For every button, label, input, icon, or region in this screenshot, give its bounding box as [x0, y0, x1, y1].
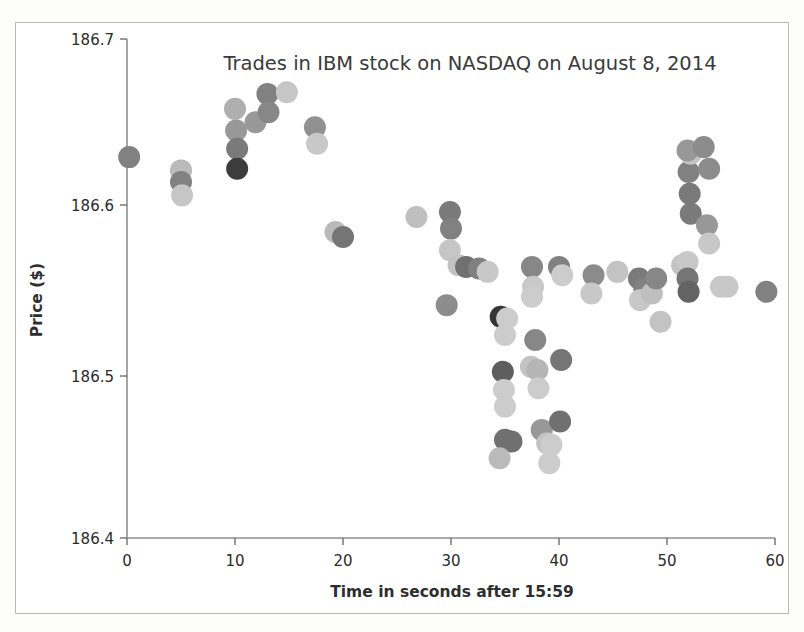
data-point	[171, 184, 193, 206]
y-tick-label-186-7: 186.7	[71, 31, 114, 49]
data-point	[494, 324, 516, 346]
data-point	[693, 136, 715, 158]
y-axis: 186.7 186.6 186.5 186.4 Price ($)	[28, 31, 127, 548]
data-point	[551, 264, 573, 286]
x-tick-label-50: 50	[657, 552, 676, 570]
data-point	[538, 452, 560, 474]
data-point	[405, 206, 427, 228]
data-point	[521, 256, 543, 278]
x-tick-label-30: 30	[441, 552, 460, 570]
x-tick-label-60: 60	[765, 552, 784, 570]
data-point	[332, 226, 354, 248]
data-point	[226, 138, 248, 160]
data-point	[716, 276, 738, 298]
x-tick-label-10: 10	[225, 552, 244, 570]
data-point	[698, 233, 720, 255]
data-point	[550, 349, 572, 371]
data-point	[489, 447, 511, 469]
data-point	[524, 329, 546, 351]
data-point	[521, 286, 543, 308]
y-axis-label: Price ($)	[28, 263, 46, 337]
data-point	[494, 396, 516, 418]
data-point	[527, 377, 549, 399]
data-point	[678, 281, 700, 303]
data-point	[645, 268, 667, 290]
data-point	[257, 101, 279, 123]
x-axis-label: Time in seconds after 15:59	[330, 583, 574, 601]
x-tick-label-40: 40	[549, 552, 568, 570]
data-point	[549, 411, 571, 433]
data-point	[306, 133, 328, 155]
data-points-layer	[118, 81, 777, 474]
scatter-plot: Trades in IBM stock on NASDAQ on August …	[0, 0, 804, 632]
y-tick-label-186-4: 186.4	[71, 530, 114, 548]
data-point	[580, 282, 602, 304]
data-point	[226, 158, 248, 180]
data-point	[477, 261, 499, 283]
data-point	[650, 311, 672, 333]
data-point	[118, 146, 140, 168]
x-tick-label-0: 0	[122, 552, 132, 570]
y-tick-label-186-6: 186.6	[71, 197, 114, 215]
figure-root: Trades in IBM stock on NASDAQ on August …	[0, 0, 804, 632]
data-point	[755, 281, 777, 303]
data-point	[698, 158, 720, 180]
chart-title: Trades in IBM stock on NASDAQ on August …	[222, 52, 716, 75]
data-point	[276, 81, 298, 103]
x-axis: 0 10 20 30 40 50 60 Time in seconds afte…	[122, 538, 784, 601]
data-point	[440, 218, 462, 240]
x-tick-label-20: 20	[333, 552, 352, 570]
data-point	[224, 98, 246, 120]
data-point	[679, 183, 701, 205]
data-point	[436, 294, 458, 316]
data-point	[606, 261, 628, 283]
y-tick-label-186-5: 186.5	[71, 368, 114, 386]
